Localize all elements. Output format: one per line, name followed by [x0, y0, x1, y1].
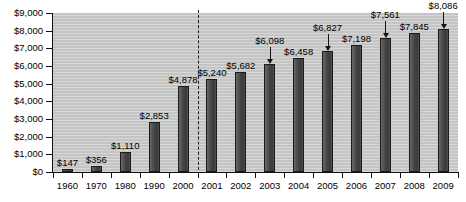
bar-2004 [293, 58, 304, 172]
x-axis-tick [313, 173, 314, 178]
y-axis-tick [46, 13, 52, 14]
x-axis-label-2009: 2009 [426, 180, 460, 191]
annotation-arrow-2005 [328, 34, 329, 46]
annotation-arrow-2003 [270, 47, 271, 59]
y-axis-tick [46, 137, 52, 138]
bar-2003 [264, 64, 275, 172]
era-divider-line [198, 10, 199, 175]
bar-2002 [235, 72, 246, 172]
bar-2008 [409, 33, 420, 172]
y-axis-labels: $0$1,000$2,000$3,000$4,000$5,000$6,000$7… [0, 0, 43, 202]
x-axis-tick [429, 173, 430, 178]
y-axis-tick-label: $8,000 [14, 26, 43, 36]
y-axis-tick [46, 84, 52, 85]
x-axis-tick [458, 173, 459, 178]
y-axis-tick [46, 66, 52, 67]
x-axis-tick [255, 173, 256, 178]
y-axis-tick-label: $7,000 [14, 43, 43, 53]
value-label-2007: $7,561 [362, 9, 408, 20]
value-label-2004: $6,458 [276, 46, 322, 57]
value-label-2006: $7,198 [333, 33, 379, 44]
annotation-arrow-2007 [385, 21, 386, 33]
y-axis-line [52, 13, 53, 173]
bar-chart-figure: $0$1,000$2,000$3,000$4,000$5,000$6,000$7… [0, 0, 466, 202]
y-axis-tick [46, 119, 52, 120]
bar-2007 [380, 38, 391, 172]
value-label-2005: $6,827 [305, 22, 351, 33]
x-axis-tick [82, 173, 83, 178]
bar-2000 [178, 86, 189, 172]
y-axis-tick [46, 172, 52, 173]
bar-1970 [91, 166, 102, 172]
bar-2005 [322, 51, 333, 172]
x-axis-tick [226, 173, 227, 178]
bar-1960 [62, 169, 73, 172]
x-axis-tick [371, 173, 372, 178]
x-axis-tick [169, 173, 170, 178]
value-label-2002: $5,682 [218, 60, 264, 71]
x-axis-tick [400, 173, 401, 178]
x-axis-tick [342, 173, 343, 178]
x-axis-tick [140, 173, 141, 178]
y-axis-tick [46, 31, 52, 32]
value-label-2003: $6,098 [247, 35, 293, 46]
x-axis-tick [53, 173, 54, 178]
annotation-arrow-2009 [443, 12, 444, 24]
bar-1980 [120, 152, 131, 172]
y-axis-tick-label: $1,000 [14, 149, 43, 159]
value-label-2008: $7,845 [391, 21, 437, 32]
y-axis-tick [46, 48, 52, 49]
y-axis-tick-label: $9,000 [14, 8, 43, 18]
bar-2009 [438, 29, 449, 172]
value-label-1980: $1,110 [102, 140, 148, 151]
value-label-1990: $2,853 [131, 110, 177, 121]
y-axis-tick-label: $4,000 [14, 96, 43, 106]
value-label-2009: $8,086 [420, 0, 466, 11]
y-axis-tick [46, 101, 52, 102]
y-axis-tick-label: $3,000 [14, 114, 43, 124]
x-axis-tick [111, 173, 112, 178]
bar-2006 [351, 45, 362, 172]
bar-1990 [149, 122, 160, 172]
y-axis-tick-label: $2,000 [14, 132, 43, 142]
y-axis-tick [46, 154, 52, 155]
x-axis-tick [284, 173, 285, 178]
y-axis-tick-label: $0 [32, 167, 43, 177]
value-label-1970: $356 [73, 154, 119, 165]
y-axis-tick-label: $5,000 [14, 79, 43, 89]
y-axis-tick-label: $6,000 [14, 61, 43, 71]
bar-2001 [206, 79, 217, 172]
